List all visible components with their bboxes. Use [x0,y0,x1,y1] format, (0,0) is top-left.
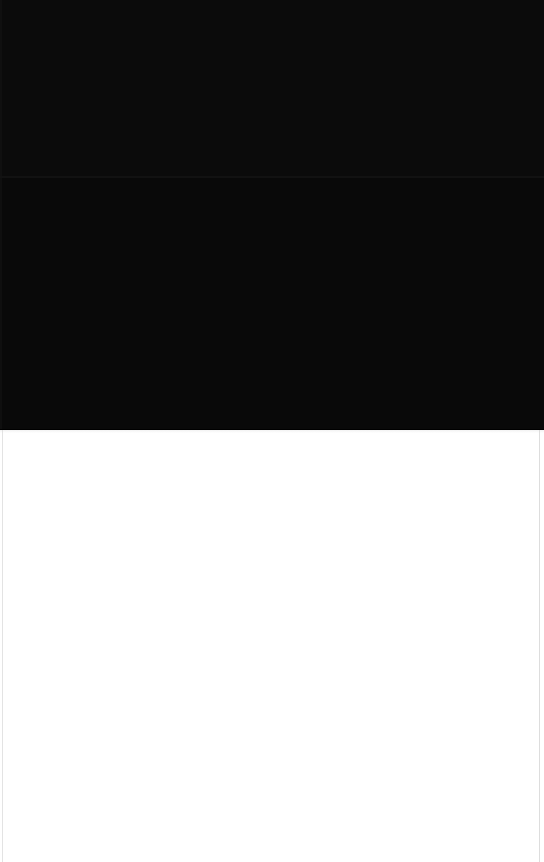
screenshot-root: Blank capture — no rendered content Scre… [0,0,544,862]
panel-border-right [539,430,540,862]
panel-body-blank [3,433,539,862]
content-panel [0,430,544,862]
dark-viewport-region [0,0,544,430]
dark-tone-lower [0,178,544,430]
dark-left-edge-sliver [0,0,2,430]
dark-tone-upper [0,0,544,176]
content-panel-content [2,432,3,433]
